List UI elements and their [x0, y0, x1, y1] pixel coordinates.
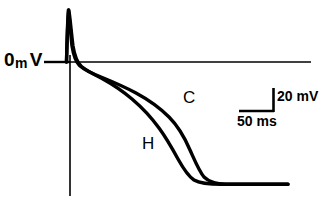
zero-mv-unit: V — [30, 49, 43, 70]
figure-panel: 0mV C H 20 mV 50 ms — [0, 0, 324, 203]
trace-c-label: C — [183, 89, 195, 106]
zero-mv-milli-prefix: m — [15, 55, 28, 71]
zero-mv-value: 0 — [4, 49, 15, 70]
trace-plot — [0, 0, 324, 203]
time-scale-label: 50 ms — [237, 114, 277, 128]
trace-h-label: H — [142, 135, 154, 152]
voltage-scale-label: 20 mV — [277, 89, 318, 103]
trace-h-curve — [67, 10, 289, 184]
zero-mv-label: 0mV — [4, 50, 43, 70]
